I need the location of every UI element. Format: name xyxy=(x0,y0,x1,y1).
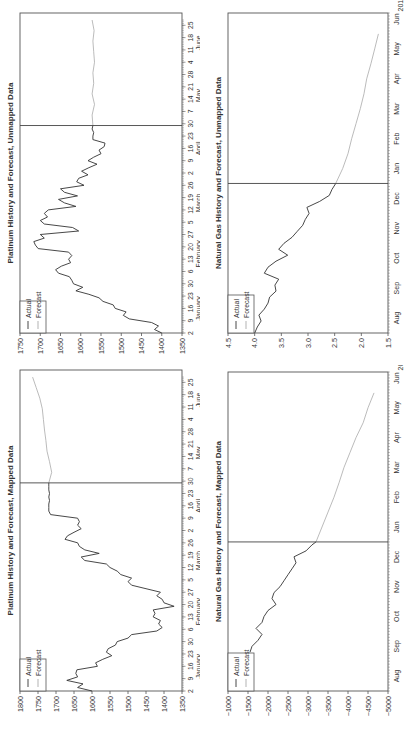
x-month-label: Feb xyxy=(393,491,400,503)
series-actual xyxy=(250,542,316,652)
x-tick-label: 23 xyxy=(187,292,194,300)
x-axis: AugSepOctNovDecJanFebMarAprMayJun2012 xyxy=(388,365,404,691)
y-tick-label: 1800 xyxy=(16,696,25,712)
chart-platinum-unmapped: Platinum History and Forecast, Unmapped … xyxy=(0,0,200,365)
y-tick-label: 1750 xyxy=(34,696,43,712)
x-month-label: May xyxy=(393,401,401,415)
x-tick-label: 11 xyxy=(187,403,194,410)
legend: ActualForecast xyxy=(20,291,46,333)
y-axis: 1.52.02.53.03.54.04.5 xyxy=(224,333,393,348)
x-month-label: Nov xyxy=(393,580,400,593)
series-actual xyxy=(255,184,336,334)
x-tick-label: 5 xyxy=(187,578,194,582)
y-tick-label: 2.5 xyxy=(330,338,339,348)
x-tick-label: 26 xyxy=(187,181,194,189)
plot-frame xyxy=(20,370,182,691)
x-month-label: Dec xyxy=(393,192,400,205)
legend-actual-label: Actual xyxy=(25,657,32,676)
chart-natural-gas-unmapped: Natural Gas History and Forecast, Unmapp… xyxy=(200,0,413,365)
x-tick-label: 14 xyxy=(187,95,194,103)
x-tick-label: 21 xyxy=(187,440,194,448)
chart-platinum-mapped: Platinum History and Forecast, Mapped Da… xyxy=(0,365,200,735)
x-tick-label: 9 xyxy=(187,516,194,520)
x-tick-label: 26 xyxy=(187,539,194,547)
y-tick-label: −5000 xyxy=(384,696,393,716)
y-tick-label: 1600 xyxy=(88,696,97,712)
y-tick-label: 3.5 xyxy=(277,338,286,348)
y-tick-label: 3.0 xyxy=(304,338,313,348)
x-tick-label: 28 xyxy=(187,71,194,79)
x-tick-label: 23 xyxy=(187,489,194,497)
x-month-label: Jun xyxy=(393,372,400,383)
x-tick-label: 2 xyxy=(187,689,194,693)
legend-actual-label: Actual xyxy=(25,299,32,318)
y-tick-label: 1700 xyxy=(52,696,61,712)
y-axis: 135014001450150015501600165017001750 xyxy=(16,333,187,354)
y-tick-label: 1350 xyxy=(178,338,187,354)
chart-title: Platinum History and Forecast, Unmapped … xyxy=(6,82,15,263)
x-tick-label: 18 xyxy=(187,391,194,399)
plot-frame xyxy=(20,13,182,333)
x-axis: 2916233061320275121926291623307142128411… xyxy=(182,20,200,335)
x-year-label: 2012 xyxy=(397,0,404,11)
x-axis: 2916233061320275121926291623307142128411… xyxy=(182,377,200,693)
y-tick-label: 1.5 xyxy=(384,338,393,348)
x-tick-label: 16 xyxy=(187,662,194,670)
y-tick-label: −1000 xyxy=(224,696,233,716)
legend: ActualForecast xyxy=(228,649,254,691)
x-tick-label: 27 xyxy=(187,231,194,239)
x-month-label: Aug xyxy=(393,670,401,683)
legend-forecast-label: Forecast xyxy=(35,649,42,676)
x-tick-label: 30 xyxy=(187,477,194,485)
y-tick-label: 1650 xyxy=(70,696,79,712)
y-tick-label: 1450 xyxy=(137,338,146,354)
series-actual xyxy=(49,483,174,691)
x-tick-label: 28 xyxy=(187,428,194,436)
y-tick-label: 1500 xyxy=(124,696,133,712)
x-tick-label: 6 xyxy=(187,269,194,273)
x-tick-label: 20 xyxy=(187,243,194,251)
x-tick-label: 27 xyxy=(187,588,194,596)
x-month-label: Sep xyxy=(393,640,401,653)
y-tick-label: 1650 xyxy=(56,338,65,354)
x-tick-label: 16 xyxy=(187,144,194,152)
y-axis: 1350140014501500155016001650170017501800 xyxy=(16,691,187,712)
x-tick-label: 4 xyxy=(187,417,194,421)
x-month-label: Jan xyxy=(393,521,400,532)
x-tick-label: 13 xyxy=(187,613,194,621)
x-month-label: Feb xyxy=(393,132,400,144)
x-month-label: Oct xyxy=(393,253,400,264)
chart-natural-gas-mapped: Natural Gas History and Forecast, Mapped… xyxy=(200,365,413,735)
y-tick-label: −3500 xyxy=(324,696,333,716)
x-tick-label: 30 xyxy=(187,120,194,128)
x-month-label: May xyxy=(393,42,401,56)
x-tick-label: 19 xyxy=(187,194,194,202)
y-tick-label: 1550 xyxy=(97,338,106,354)
series-forecast xyxy=(92,20,94,126)
x-year-label: 2012 xyxy=(397,365,404,370)
x-tick-label: 14 xyxy=(187,452,194,460)
y-tick-label: −4000 xyxy=(344,696,353,716)
y-tick-label: −2000 xyxy=(264,696,273,716)
y-tick-label: 1700 xyxy=(36,338,45,354)
y-tick-label: 1750 xyxy=(16,338,25,354)
series-forecast xyxy=(336,34,379,184)
y-tick-label: 4.5 xyxy=(224,338,233,348)
x-tick-label: 9 xyxy=(187,319,194,323)
x-month-label: Dec xyxy=(393,550,400,563)
y-tick-label: 4.0 xyxy=(250,338,259,348)
y-tick-label: −4500 xyxy=(364,696,373,716)
x-axis: AugSepOctNovDecJanFebMarAprMayJun2012 xyxy=(388,0,404,333)
x-tick-label: 23 xyxy=(187,650,194,658)
y-tick-label: 1550 xyxy=(106,696,115,712)
x-tick-label: 18 xyxy=(187,34,194,42)
legend-forecast-label: Forecast xyxy=(243,291,250,318)
legend: ActualForecast xyxy=(228,291,254,333)
x-month-label: Nov xyxy=(393,222,400,235)
y-tick-label: 1450 xyxy=(142,696,151,712)
x-tick-label: 25 xyxy=(187,378,194,386)
x-month-label: Sep xyxy=(393,282,401,295)
y-tick-label: 1500 xyxy=(117,338,126,354)
legend-actual-label: Actual xyxy=(233,299,240,318)
x-tick-label: 21 xyxy=(187,83,194,91)
